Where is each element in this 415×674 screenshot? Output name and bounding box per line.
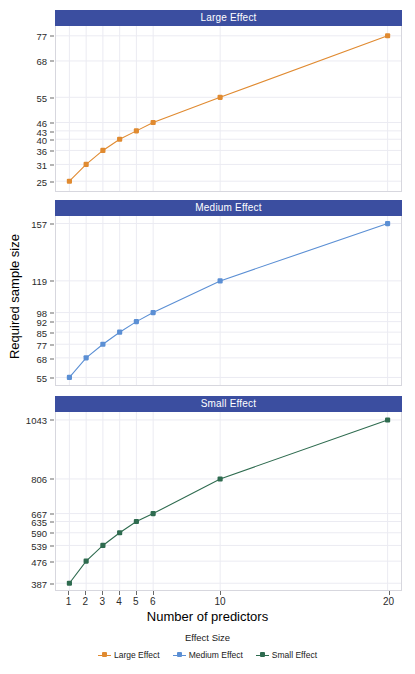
y-tick-label: 119 [5,276,47,287]
legend-item-label: Small Effect [272,650,317,660]
facet-panel-medium-effect: Medium Effect [55,200,402,386]
y-tick-mark [50,345,54,346]
legend-dot-swatch [102,652,107,657]
y-tick-label: 46 [5,118,47,129]
x-tick-label: 4 [116,596,122,607]
legend-item[interactable]: Small Effect [256,650,317,660]
plot-area-medium-effect [55,216,402,386]
legend-item[interactable]: Medium Effect [173,650,243,660]
plot-svg-large-effect [56,26,401,191]
y-tick-label: 1043 [5,415,47,426]
facet-panel-large-effect: Large Effect [55,10,402,192]
y-tick-mark [50,165,54,166]
y-tick-label: 85 [5,327,47,338]
legend-items: Large EffectMedium EffectSmall Effect [0,650,415,660]
y-tick-label: 387 [5,579,47,590]
legend-dot-swatch [177,652,182,657]
x-axis-title: Number of predictors [0,609,415,624]
x-tick-mark [136,591,137,595]
x-tick-mark [119,591,120,595]
y-tick-mark [50,151,54,152]
facet-strip-small-effect: Small Effect [55,396,402,412]
x-tick-mark [153,591,154,595]
y-tick-label: 539 [5,541,47,552]
y-tick-mark [50,223,54,224]
y-tick-mark [50,97,54,98]
x-tick-mark [220,591,221,595]
y-tick-label: 77 [5,30,47,41]
y-tick-label: 68 [5,353,47,364]
y-tick-label: 31 [5,160,47,171]
y-tick-label: 25 [5,177,47,188]
facet-strip-large-effect: Large Effect [55,10,402,26]
facet-panel-small-effect: Small Effect [55,396,402,591]
y-tick-label: 667 [5,509,47,520]
y-tick-mark [50,139,54,140]
x-tick-label: 3 [99,596,105,607]
y-tick-mark [50,514,54,515]
legend-item[interactable]: Large Effect [98,650,160,660]
legend-item-label: Large Effect [114,650,160,660]
y-tick-label: 55 [5,373,47,384]
x-tick-label: 5 [133,596,139,607]
y-tick-mark [50,420,54,421]
y-tick-mark [50,131,54,132]
y-tick-mark [50,522,54,523]
legend-title: Effect Size [0,632,415,643]
legend-key-icon [173,651,186,659]
y-tick-mark [50,313,54,314]
legend-key-icon [256,651,269,659]
y-tick-mark [50,546,54,547]
y-tick-label: 476 [5,556,47,567]
plot-svg-small-effect [56,412,401,590]
y-tick-mark [50,378,54,379]
plot-area-large-effect [55,26,402,192]
x-tick-mark [102,591,103,595]
y-tick-label: 77 [5,340,47,351]
legend-item-label: Medium Effect [189,650,243,660]
y-tick-label: 68 [5,56,47,67]
y-tick-mark [50,281,54,282]
x-tick-label: 2 [83,596,89,607]
legend: Effect Size Large EffectMedium EffectSma… [0,632,415,660]
y-tick-mark [50,561,54,562]
y-tick-mark [50,584,54,585]
x-tick-mark [68,591,69,595]
y-tick-label: 98 [5,308,47,319]
plot-area-small-effect [55,412,402,591]
y-tick-mark [50,61,54,62]
legend-key-icon [98,651,111,659]
y-tick-label: 36 [5,146,47,157]
facet-strip-medium-effect: Medium Effect [55,200,402,216]
x-tick-label: 20 [383,596,394,607]
y-tick-mark [50,358,54,359]
x-tick-mark [389,591,390,595]
chart-figure: Required sample size Large Effect 253136… [0,0,415,674]
y-tick-label: 590 [5,528,47,539]
y-tick-mark [50,533,54,534]
y-tick-mark [50,479,54,480]
y-tick-mark [50,123,54,124]
y-tick-mark [50,332,54,333]
y-tick-label: 157 [5,218,47,229]
y-tick-mark [50,182,54,183]
y-tick-mark [50,35,54,36]
x-tick-label: 1 [66,596,72,607]
x-tick-mark [85,591,86,595]
plot-svg-medium-effect [56,216,401,385]
legend-dot-swatch [260,652,265,657]
y-tick-label: 55 [5,92,47,103]
y-tick-mark [50,322,54,323]
x-tick-label: 6 [150,596,156,607]
y-tick-label: 806 [5,474,47,485]
x-tick-label: 10 [215,596,226,607]
